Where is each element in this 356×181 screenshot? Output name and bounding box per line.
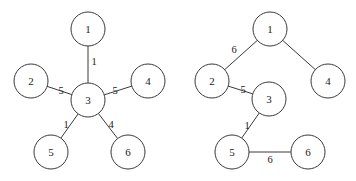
result-graph-node-4: 4 [311,64,345,98]
nodes-layer: 123456123456 [14,12,345,169]
node-label: 6 [125,146,131,158]
node-label: 4 [325,75,331,87]
result-graph-node-1: 1 [253,12,287,46]
original-graph-edge-weight-1-3: 1 [91,56,96,67]
result-graph-edge-weight-2-3: 5 [240,84,245,95]
result-graph-node-5: 5 [215,135,249,169]
result-graph-node-2: 2 [195,64,229,98]
node-label: 4 [145,75,151,87]
result-graph-edge-1-2 [225,40,258,69]
original-graph-node-4: 4 [131,64,165,98]
node-label: 1 [85,23,91,35]
node-label: 3 [85,94,91,106]
result-graph-edge-weight-1-2: 6 [231,44,236,55]
original-graph-edge-3-4 [104,86,132,95]
graph-diagram: 123456123456 155146516 [0,0,356,181]
node-label: 5 [48,146,54,158]
original-graph-node-6: 6 [111,135,145,169]
node-label: 1 [267,23,273,35]
original-graph-node-5: 5 [34,135,68,169]
result-graph-node-6: 6 [291,135,325,169]
original-graph-node-1: 1 [71,12,105,46]
original-graph-node-2: 2 [14,64,48,98]
original-graph-edge-weight-3-6: 4 [108,119,114,130]
node-label: 5 [229,146,235,158]
original-graph-edge-weight-3-5: 1 [63,119,68,130]
node-label: 2 [209,75,215,87]
original-graph-edge-weight-2-3: 5 [58,85,63,96]
node-label: 2 [28,75,34,87]
original-graph-edge-weight-3-4: 5 [112,85,117,96]
result-graph-edge-weight-3-5: 1 [244,120,249,131]
result-graph-node-3: 3 [252,82,286,116]
node-label: 6 [305,146,311,158]
original-graph-node-3: 3 [71,83,105,117]
result-graph-edge-weight-5-6: 6 [267,154,272,165]
result-graph-edge-1-4 [283,40,316,69]
node-label: 3 [266,93,272,105]
